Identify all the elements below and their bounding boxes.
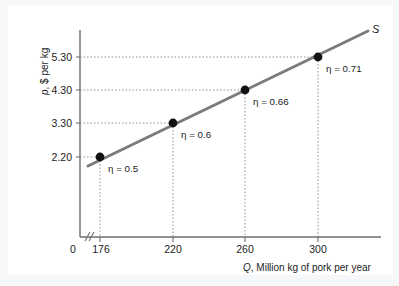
- x-axis-title-text: , Million kg of pork per year: [251, 262, 372, 273]
- annotation-eta-176: η = 0.5: [108, 163, 139, 174]
- y-tick-label-530: 5.30: [52, 51, 73, 63]
- data-point-300[interactable]: [314, 53, 323, 62]
- y-tick-label-220: 2.20: [52, 151, 73, 163]
- x-tick-label-0: 0: [70, 243, 76, 255]
- supply-curve-label: S: [372, 23, 380, 35]
- supply-curve-line: [88, 31, 368, 166]
- x-tick-label-300: 300: [309, 243, 327, 255]
- guide-lines-group: [80, 57, 318, 237]
- x-tick-marks: [100, 237, 318, 242]
- svg-text:Q, Million kg of pork per year: Q, Million kg of pork per year: [243, 262, 372, 273]
- y-axis-title-text: , $ per kg: [39, 48, 50, 90]
- data-point-176[interactable]: [96, 153, 105, 162]
- annotation-eta-220: η = 0.6: [181, 129, 212, 140]
- svg-text:p, $ per kg: p, $ per kg: [39, 48, 50, 96]
- x-axis-title: Q, Million kg of pork per year: [243, 262, 372, 273]
- supply-curve-chart: 5.30 4.30 3.30 2.20 0 176 220 260 300 η …: [0, 0, 399, 286]
- axes-group: [80, 30, 381, 241]
- y-axis-title: p, $ per kg: [39, 48, 50, 96]
- annotation-eta-260: η = 0.66: [253, 96, 289, 107]
- y-tick-label-330: 3.30: [52, 117, 73, 129]
- x-tick-label-220: 220: [164, 243, 182, 255]
- y-tick-label-430: 4.30: [52, 84, 73, 96]
- data-point-260[interactable]: [241, 86, 250, 95]
- x-tick-label-176: 176: [92, 243, 110, 255]
- x-tick-label-260: 260: [236, 243, 254, 255]
- annotation-eta-300: η = 0.71: [326, 63, 362, 74]
- figure-container: 5.30 4.30 3.30 2.20 0 176 220 260 300 η …: [0, 0, 399, 286]
- data-point-220[interactable]: [169, 119, 178, 128]
